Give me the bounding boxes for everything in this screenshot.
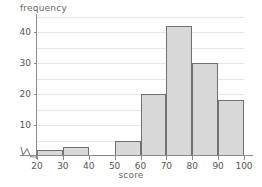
x-tick-mark (192, 156, 193, 160)
y-axis-line (36, 14, 37, 159)
gridline (37, 32, 244, 33)
y-tick-mark (34, 32, 37, 33)
axis-break-zigzag-icon (20, 146, 38, 160)
x-tick-mark (115, 156, 116, 160)
y-axis-title: frequency (20, 3, 67, 13)
y-tick-mark (34, 94, 37, 95)
y-tick-mark (34, 125, 37, 126)
histogram-chart: frequency 10203040 2030405060708090100 s… (0, 0, 262, 187)
gridline (37, 48, 244, 49)
x-tick-mark (89, 156, 90, 160)
x-tick-mark (141, 156, 142, 160)
x-axis-title: score (0, 170, 262, 180)
histogram-bar (192, 63, 218, 156)
x-tick-mark (218, 156, 219, 160)
histogram-bar (166, 26, 192, 156)
x-tick-mark (244, 156, 245, 160)
y-tick-label: 20 (13, 89, 31, 99)
y-tick-label: 30 (13, 58, 31, 68)
y-tick-label: 10 (13, 120, 31, 130)
x-tick-mark (63, 156, 64, 160)
y-tick-label: 40 (13, 27, 31, 37)
x-tick-mark (166, 156, 167, 160)
gridline (37, 17, 244, 18)
histogram-bar (218, 100, 244, 156)
y-tick-mark (34, 63, 37, 64)
histogram-bar (115, 141, 141, 156)
histogram-bar (141, 94, 167, 156)
plot-area (37, 17, 244, 156)
